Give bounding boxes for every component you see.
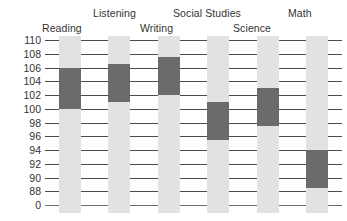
gridline: [45, 109, 342, 110]
gridline: [45, 136, 342, 137]
y-axis-tick-label: 88: [29, 185, 41, 197]
range-bar-writing: [158, 57, 180, 95]
category-label-social-studies: Social Studies: [173, 7, 241, 19]
y-axis-tick-label: 0: [35, 199, 41, 211]
y-axis-tick-label: 92: [29, 158, 41, 170]
category-label-listening: Listening: [93, 7, 136, 19]
y-axis-tick-label: 102: [23, 89, 41, 101]
gridline: [45, 150, 342, 151]
gridline: [45, 54, 342, 55]
gridline: [45, 191, 342, 192]
gridline: [45, 164, 342, 165]
y-axis-tick-label: 90: [29, 172, 41, 184]
y-axis-tick-label: 94: [29, 144, 41, 156]
gridline: [45, 178, 342, 179]
y-axis-tick-label: 110: [24, 34, 41, 46]
column-band: [59, 36, 81, 213]
y-axis-tick-label: 106: [23, 62, 41, 74]
plot-area: [45, 40, 342, 205]
gridline: [45, 40, 342, 41]
y-axis-tick-label: 96: [29, 130, 41, 142]
y-axis-tick-label: 100: [23, 103, 41, 115]
range-bar-science: [257, 88, 279, 126]
gridline: [45, 205, 342, 206]
category-label-writing: Writing: [140, 22, 173, 34]
gridline: [45, 123, 342, 124]
y-axis-tick-label: 98: [29, 117, 41, 129]
gridline: [45, 95, 342, 96]
category-label-math: Math: [288, 7, 312, 19]
y-axis-tick-label: 104: [23, 75, 41, 87]
range-bar-listening: [108, 64, 130, 102]
category-label-reading: Reading: [42, 22, 82, 34]
range-bar-social-studies: [207, 102, 229, 140]
column-band: [108, 36, 130, 213]
range-bar-reading: [59, 68, 81, 109]
range-bar-chart: Reading Listening Writing Social Studies…: [0, 0, 347, 221]
category-label-science: Science: [233, 22, 271, 34]
gridline: [45, 68, 342, 69]
gridline: [45, 81, 342, 82]
range-bar-math: [306, 150, 328, 188]
y-axis-tick-label: 108: [23, 48, 41, 60]
y-axis: 1101081061041021009896949290880: [0, 40, 41, 205]
